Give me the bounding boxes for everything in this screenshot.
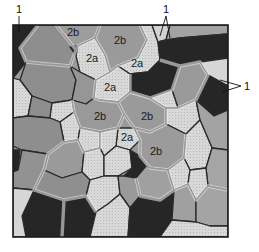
callout-1-top-middle: 1 [163, 3, 169, 15]
label-2a: 2a [86, 52, 99, 64]
label-2a: 2a [104, 81, 117, 93]
label-2b: 2b [67, 26, 79, 38]
label-2b: 2b [141, 110, 153, 122]
label-2b: 2b [150, 145, 162, 157]
label-2a: 2a [121, 131, 134, 143]
label-2b: 2b [114, 34, 126, 46]
label-2b: 2b [94, 110, 106, 122]
callout-1-top-left: 1 [16, 3, 22, 15]
label-2a: 2a [131, 57, 144, 69]
callout-1-right: 1 [244, 80, 250, 92]
grain-structure-figure: 2b 2b 2a 2a 2a 2b 2b 2a 2b 1 1 1 [0, 0, 259, 252]
